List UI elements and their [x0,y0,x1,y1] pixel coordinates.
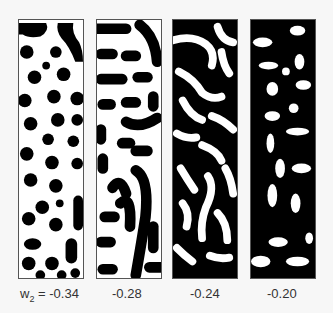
spots-pattern [19,20,83,278]
pattern-panel-2 [96,19,162,279]
panel-label-4: -0.20 [267,286,297,301]
inverted-spots-pattern [251,20,315,278]
equals-sign: = [38,286,46,301]
pattern-panel-3 [172,19,238,279]
pattern-panel-4 [250,19,316,279]
panel-label-1: w2 = -0.34 [20,286,79,304]
parameter-symbol: w [20,286,29,301]
parameter-subscript: 2 [29,294,34,304]
stripes-pattern [97,20,161,278]
labyrinth-pattern [173,20,237,278]
panel-label-2: -0.28 [112,286,142,301]
panel-value-2: -0.28 [112,286,142,301]
panel-value-3: -0.24 [190,286,220,301]
panel-value-4: -0.20 [267,286,297,301]
panel-value-1: -0.34 [49,286,79,301]
pattern-panel-1 [18,19,84,279]
panel-label-3: -0.24 [190,286,220,301]
